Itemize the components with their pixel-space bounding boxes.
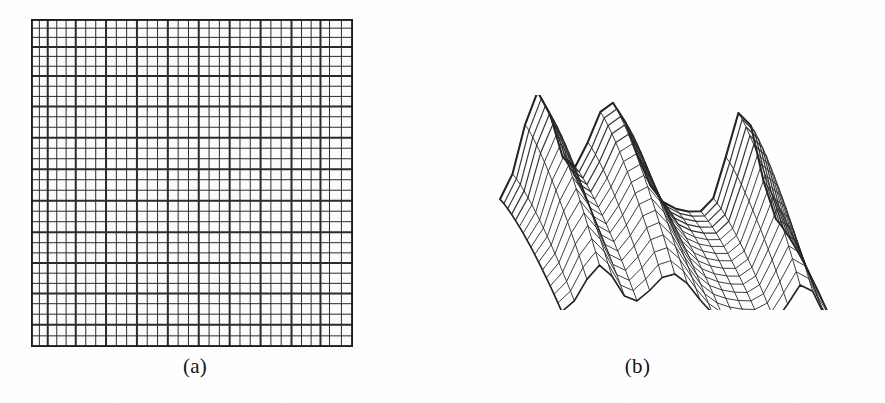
surface-wire [500, 199, 562, 310]
surface-wire [513, 174, 575, 301]
mesh-background [31, 19, 353, 347]
adaptive-mesh-grid [31, 19, 353, 347]
figure-panel-b: (b) [390, 0, 885, 403]
surface-wire [500, 199, 562, 310]
panel-b-caption: (b) [390, 356, 885, 377]
wireframe-surface-plot [350, 95, 880, 310]
panel-a-caption: (a) [0, 356, 390, 377]
figure-root: (a) (b) [0, 0, 885, 403]
surface-wire [575, 167, 637, 301]
figure-panel-a: (a) [0, 0, 390, 403]
surface-wire-group [500, 95, 838, 310]
